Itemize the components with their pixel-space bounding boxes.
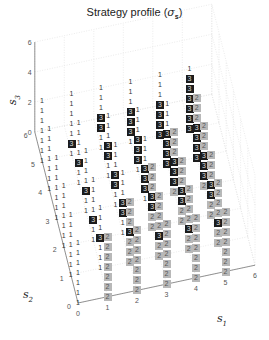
- data-label-2: 2: [163, 220, 171, 228]
- data-label-3: 3: [186, 75, 194, 83]
- data-label-1: 1: [82, 167, 90, 175]
- data-label-1: 1: [104, 112, 112, 120]
- data-label-2: 2: [207, 171, 215, 179]
- data-label-2: 2: [207, 151, 215, 159]
- data-label-1: 1: [141, 155, 149, 163]
- grid-line: [35, 4, 212, 42]
- data-label-2: 2: [148, 173, 156, 181]
- data-label-2: 2: [163, 280, 171, 288]
- data-label-2: 2: [126, 218, 134, 226]
- data-label-1: 1: [45, 135, 53, 143]
- data-label-2: 2: [163, 230, 171, 238]
- data-label-2: 2: [214, 199, 222, 207]
- data-label-1: 1: [89, 196, 97, 204]
- data-label-2: 2: [155, 202, 163, 210]
- data-label-1: 1: [52, 164, 60, 172]
- data-label-1: 1: [52, 154, 60, 162]
- z-tick-label: 2: [28, 99, 32, 106]
- data-label-2: 2: [185, 185, 193, 193]
- data-label-2: 2: [133, 236, 141, 244]
- data-label-1: 1: [134, 106, 142, 114]
- data-label-1: 1: [45, 145, 53, 153]
- data-label-2: 2: [192, 214, 200, 222]
- data-label-2: 2: [163, 240, 171, 248]
- x-tick-label: 2: [135, 297, 139, 304]
- y-tick-label: 4: [38, 189, 42, 196]
- y-tick-label: 2: [53, 246, 57, 253]
- data-label-2: 2: [192, 254, 200, 262]
- data-label-1: 1: [89, 186, 97, 194]
- data-label-1: 1: [156, 81, 164, 89]
- data-label-2: 2: [214, 179, 222, 187]
- data-label-2: 2: [222, 258, 230, 266]
- data-label-1: 1: [111, 161, 119, 169]
- data-label-2: 2: [155, 192, 163, 200]
- x-axis-label: s1: [217, 312, 227, 327]
- data-label-2: 2: [192, 274, 200, 282]
- data-label-2: 2: [222, 268, 230, 276]
- data-label-1: 1: [74, 289, 82, 297]
- data-label-2: 2: [193, 114, 201, 122]
- data-label-2: 2: [133, 256, 141, 264]
- data-label-2: 2: [170, 148, 178, 156]
- data-label-2: 2: [104, 273, 112, 281]
- data-label-2: 2: [126, 198, 134, 206]
- data-label-1: 1: [60, 182, 68, 190]
- data-label-2: 2: [178, 167, 186, 175]
- data-label-1: 1: [134, 116, 142, 124]
- data-label-1: 1: [97, 94, 105, 102]
- data-label-1: 1: [75, 129, 83, 137]
- data-label-1: 1: [127, 88, 135, 96]
- data-label-1: 1: [74, 259, 82, 267]
- z-tick-label: 4: [28, 69, 32, 76]
- x-tick-label: 5: [224, 278, 228, 285]
- data-label-2: 2: [222, 218, 230, 226]
- data-label-1: 1: [67, 221, 75, 229]
- data-label-2: 2: [200, 132, 208, 140]
- data-label-1: 1: [119, 189, 127, 197]
- data-label-2: 2: [163, 270, 171, 278]
- data-label-2: 2: [170, 128, 178, 136]
- data-label-2: 2: [104, 253, 112, 261]
- z-axis-label: s3: [6, 95, 21, 105]
- data-label-1: 1: [60, 192, 68, 200]
- data-label-1: 1: [127, 98, 135, 106]
- data-label-1: 1: [111, 151, 119, 159]
- data-label-1: 1: [82, 147, 90, 155]
- data-label-1: 1: [75, 119, 83, 127]
- strategy-profile-3d-plot: Strategy profile (σs) 111111113111111133…: [0, 0, 269, 340]
- data-label-2: 2: [133, 266, 141, 274]
- z-tick-label: 0: [28, 129, 32, 136]
- data-label-2: 2: [192, 234, 200, 242]
- data-label-2: 2: [193, 104, 201, 112]
- data-label-1: 1: [97, 84, 105, 92]
- data-label-1: 1: [89, 176, 97, 184]
- data-label-1: 1: [45, 125, 53, 133]
- data-label-1: 1: [96, 204, 104, 212]
- data-label-1: 1: [38, 107, 46, 115]
- data-label-1: 1: [74, 279, 82, 287]
- data-label-1: 1: [156, 91, 164, 99]
- data-label-2: 2: [155, 212, 163, 220]
- y-tick-label: 3: [45, 217, 49, 224]
- x-tick-label: 3: [165, 291, 169, 298]
- data-label-1: 1: [97, 104, 105, 112]
- data-label-2: 2: [170, 138, 178, 146]
- data-label-2: 2: [133, 286, 141, 294]
- data-label-1: 1: [186, 65, 194, 73]
- data-label-1: 1: [141, 135, 149, 143]
- data-label-2: 2: [222, 248, 230, 256]
- data-label-1: 1: [82, 157, 90, 165]
- data-label-1: 1: [60, 202, 68, 210]
- data-label-1: 1: [163, 120, 171, 128]
- data-label-2: 2: [104, 293, 112, 301]
- data-label-2: 2: [222, 208, 230, 216]
- data-label-1: 1: [104, 122, 112, 130]
- data-label-2: 2: [192, 244, 200, 252]
- data-label-1: 1: [68, 90, 76, 98]
- data-label-1: 1: [141, 145, 149, 153]
- data-label-2: 2: [104, 283, 112, 291]
- data-label-1: 1: [68, 100, 76, 108]
- data-label-1: 1: [68, 110, 76, 118]
- data-label-2: 2: [133, 276, 141, 284]
